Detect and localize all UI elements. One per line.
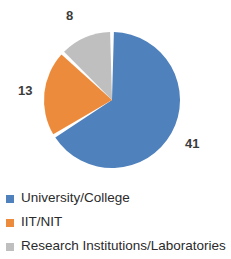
- legend-swatch-research-institutions: [6, 243, 14, 251]
- legend-item-university-college[interactable]: University/College: [0, 186, 231, 210]
- legend-label-university-college: University/College: [21, 191, 130, 205]
- legend-swatch-university-college: [6, 195, 14, 203]
- data-label-university-college: 41: [185, 137, 199, 150]
- data-label-research-institutions: 8: [66, 9, 73, 22]
- legend-label-research-institutions: Research Institutions/Laboratories: [21, 239, 226, 253]
- pie-chart: 8 13 41 University/College IIT/NIT Resea…: [0, 0, 231, 259]
- pie-graphic: [0, 0, 231, 182]
- pie-plot-area: 8 13 41: [0, 0, 231, 182]
- legend-label-iit-nit: IIT/NIT: [21, 215, 62, 229]
- chart-legend: University/College IIT/NIT Research Inst…: [0, 186, 231, 258]
- pie-slices: [44, 32, 180, 168]
- legend-swatch-iit-nit: [6, 219, 14, 227]
- legend-item-iit-nit[interactable]: IIT/NIT: [0, 210, 231, 234]
- data-label-iit-nit: 13: [18, 84, 32, 97]
- legend-item-research-institutions[interactable]: Research Institutions/Laboratories: [0, 234, 231, 258]
